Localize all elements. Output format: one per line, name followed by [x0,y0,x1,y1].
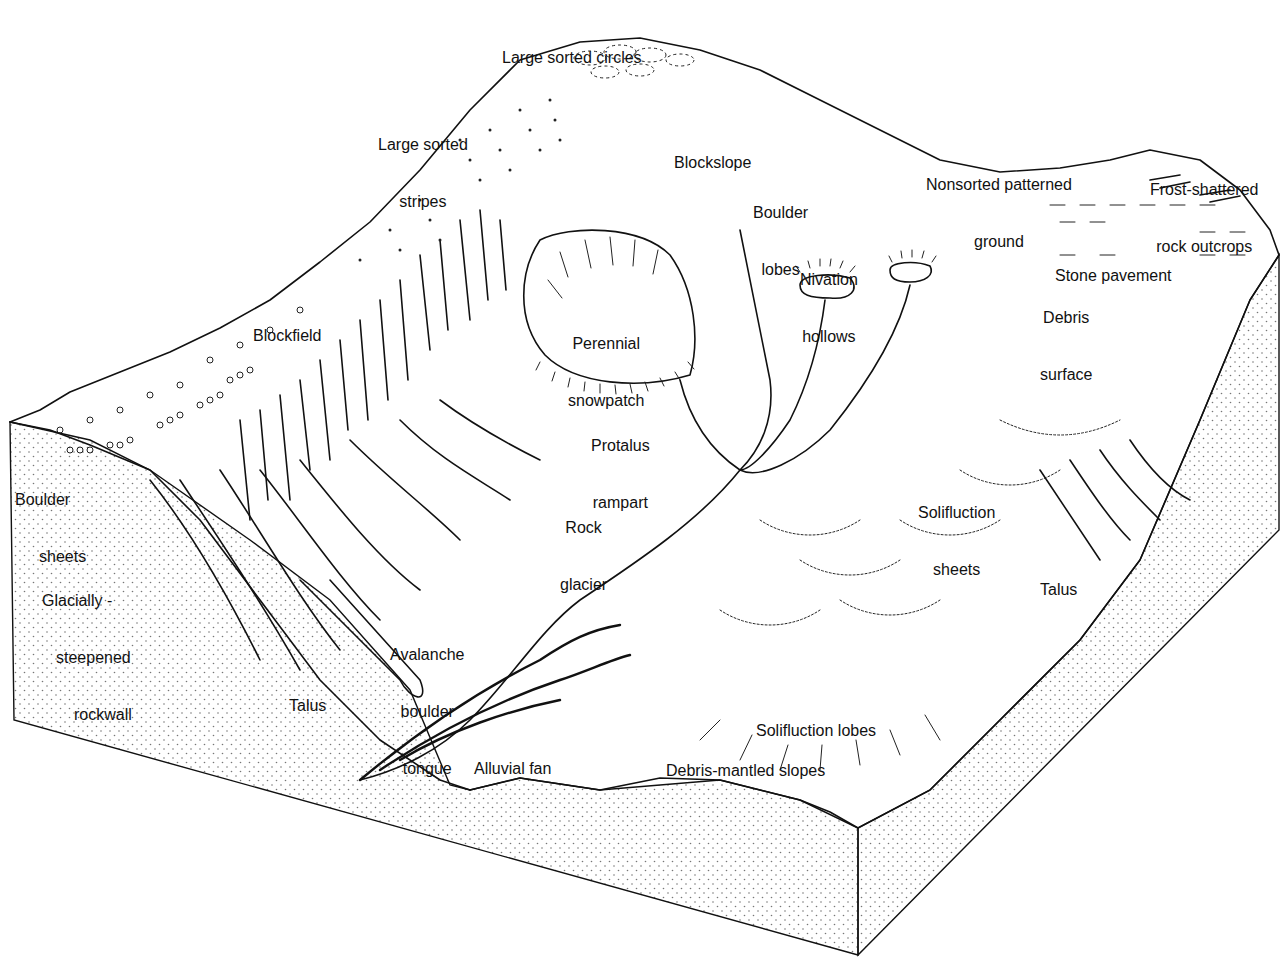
label-avalanche-boulder-tongue: Avalanche boulder tongue [390,607,464,797]
label-blockfield: Blockfield [253,288,321,364]
label-debris-mantled-slopes: Debris-mantled slopes [666,723,825,799]
label-rock-glacier: Rock glacier [560,480,607,613]
label-talus-left: Talus [289,658,326,734]
label-debris-surface: Debris surface [1040,270,1092,403]
label-blockslope: Blockslope [674,115,751,191]
label-nivation-hollows: Nivation hollows [800,232,858,365]
label-glacially-steepened-rockwall: Glacially - steepened rockwall [42,553,132,743]
label-large-sorted-circles: Large sorted circles [502,10,642,86]
snowpatch-ribs [548,237,658,298]
label-large-sorted-stripes: Large sorted stripes [378,97,468,230]
label-talus-right: Talus [1040,542,1077,618]
label-solifluction-sheets: Solifluction sheets [918,465,995,598]
label-alluvial-fan: Alluvial fan [474,721,551,797]
label-nonsorted-patterned-ground: Nonsorted patterned ground [926,137,1072,270]
